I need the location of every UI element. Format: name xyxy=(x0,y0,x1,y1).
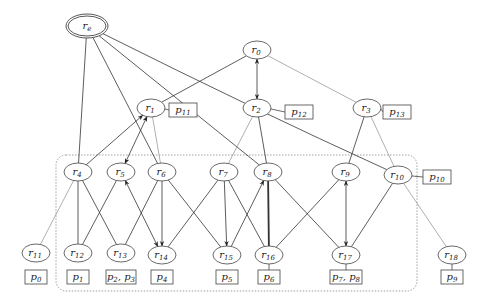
task-graph-diagram: rer0r1r2r3r4r5r6r7r8r9r10r11r12r13r14r15… xyxy=(0,0,482,306)
node-r9: r9 xyxy=(332,163,360,181)
processor-p23: p2, p3 xyxy=(106,270,136,284)
edge-r7-r14 xyxy=(168,180,218,247)
edge-r16-r8 xyxy=(268,181,269,246)
processor-p11: p11 xyxy=(165,103,197,117)
edge-r4-r11 xyxy=(40,181,73,245)
processor-p10: p10 xyxy=(412,170,451,184)
edge-r2-r8 xyxy=(259,117,267,163)
node-r10: r10 xyxy=(384,166,412,184)
edge-r3-r10 xyxy=(371,117,394,167)
node-re: re xyxy=(66,14,108,38)
node-r13: r13 xyxy=(107,244,135,262)
edge-re-r4 xyxy=(79,38,87,163)
node-r3: r3 xyxy=(353,99,381,117)
edge-r6-r15 xyxy=(168,180,220,247)
node-r18: r18 xyxy=(438,246,466,264)
edge-re-r8 xyxy=(99,36,259,165)
edge-r10-r17 xyxy=(351,183,392,246)
node-r0: r0 xyxy=(243,41,271,59)
processor-p6: p6 xyxy=(258,264,280,284)
processor-p9: p9 xyxy=(441,264,463,284)
node-r16: r16 xyxy=(255,246,283,264)
node-r6: r6 xyxy=(148,163,176,181)
edge-r0-r1 xyxy=(162,56,247,102)
node-r14: r14 xyxy=(148,246,176,264)
processor-p5: p5 xyxy=(216,270,238,284)
node-r8: r8 xyxy=(254,163,282,181)
edge-r3-r9 xyxy=(349,117,364,163)
diagram-svg: rer0r1r2r3r4r5r6r7r8r9r10r11r12r13r14r15… xyxy=(0,0,482,306)
edge-r7-r15 xyxy=(224,181,226,246)
processor-p13: p13 xyxy=(381,105,411,119)
node-r12: r12 xyxy=(64,244,92,262)
edge-r10-r18 xyxy=(404,183,447,246)
node-r11: r11 xyxy=(22,244,50,262)
edge-r0-r3 xyxy=(268,56,356,103)
processor-p1: p1 xyxy=(67,270,89,284)
edge-r4-r1 xyxy=(86,115,142,164)
node-r15: r15 xyxy=(213,246,241,264)
edges xyxy=(40,34,446,248)
processor-p12: p12 xyxy=(271,105,313,119)
node-r4: r4 xyxy=(64,163,92,181)
node-r2: r2 xyxy=(243,99,271,117)
processor-p0: p0 xyxy=(25,270,47,284)
nodes: rer0r1r2r3r4r5r6r7r8r9r10r11r12r13r14r15… xyxy=(22,14,466,264)
node-r1: r1 xyxy=(137,99,165,117)
node-r5: r5 xyxy=(107,163,135,181)
node-r7: r7 xyxy=(210,163,238,181)
processor-p78: p7, p8 xyxy=(330,264,362,284)
edge-r1-r5 xyxy=(125,117,147,164)
processor-p4: p4 xyxy=(151,270,173,284)
node-r17: r17 xyxy=(332,246,360,264)
